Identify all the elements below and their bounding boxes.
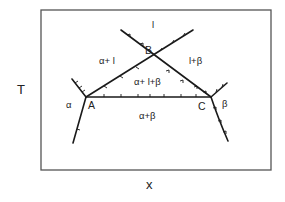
region-liquid-plus-beta: l+β [189, 55, 203, 66]
point-label-A: A [88, 99, 95, 111]
y-axis-label: T [17, 82, 25, 97]
line-A-lower [73, 97, 86, 143]
x-axis-label: x [146, 177, 153, 192]
region-liquid: l [152, 19, 154, 30]
region-alpha-plus-liquid: α+ l [99, 55, 115, 66]
plot-frame [41, 10, 271, 170]
region-alpha-plus-beta: α+β [139, 110, 156, 121]
region-alpha: α [66, 99, 72, 110]
line-C-upper-right [211, 83, 227, 97]
region-three-phase: α+ l+β [134, 76, 161, 87]
point-label-B: B [145, 44, 152, 56]
phase-diagram: T x A B C l α+ l l+β α+ l+β α β α+β [0, 0, 285, 202]
point-label-C: C [198, 100, 206, 112]
region-beta: β [222, 98, 228, 109]
